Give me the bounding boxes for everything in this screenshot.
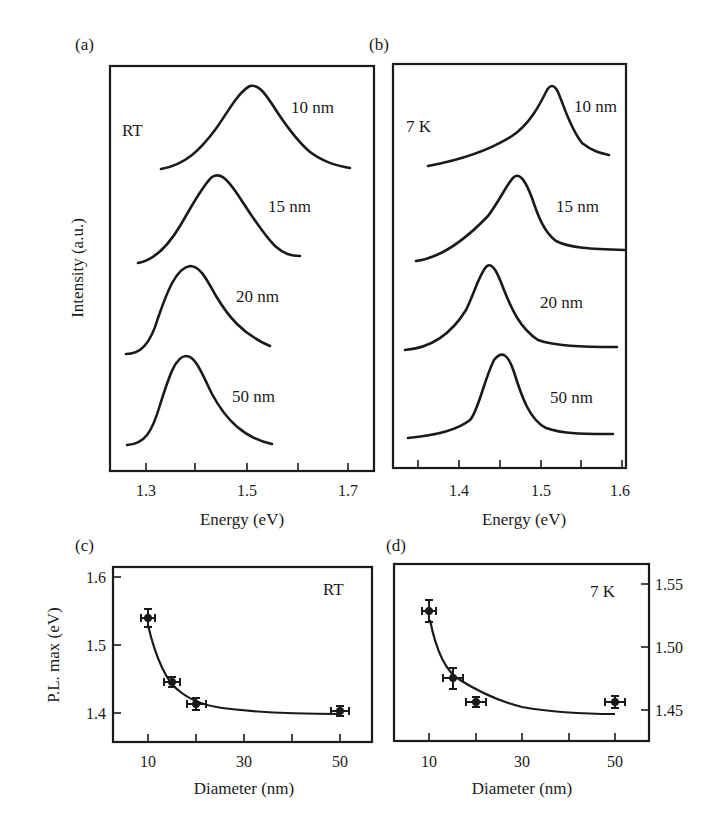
panel-c-point-10nm [141,609,155,627]
panel-c-fit-curve [148,625,340,714]
panel-a-label-15nm: 15 nm [268,197,311,216]
panel-a-curve-20nm [126,266,270,354]
panel-d-point-10nm [422,600,436,622]
panel-b-label-15nm: 15 nm [556,197,599,216]
panel-a-tick-1.5: 1.5 [237,482,257,499]
panel-d-ytick-1.55: 1.55 [655,576,683,593]
panel-c-ytick-1.5: 1.5 [86,637,106,654]
panel-c-xtick-10: 10 [140,753,156,770]
panel-d-point-50nm [605,696,625,708]
panel-b-label-20nm: 20 nm [540,293,583,312]
panel-c-ytick-1.6: 1.6 [86,569,106,586]
panel-d-xticks [429,733,615,741]
panel-a-tick-1.3: 1.3 [136,482,156,499]
panel-c-xtick-50: 50 [332,753,348,770]
panel-b-condition: 7 K [406,117,432,136]
panel-a-frame [110,66,374,471]
panel-b-tick-1.5: 1.5 [531,482,551,499]
panel-c-ylabel: P.L. max (eV) [44,607,63,702]
panel-b-curve-20nm [405,265,617,350]
panel-c: (c) 1.6 1.5 1.4 10 30 50 Diameter (nm) P… [44,536,372,798]
figure: (a) 1.3 1.5 1.7 Energy (eV) Intensity (a… [0,0,728,830]
panel-a-label-50nm: 50 nm [232,387,275,406]
panel-c-xlabel: Diameter (nm) [194,779,295,798]
panel-c-xticks [148,734,340,742]
panel-d-xlabel: Diameter (nm) [472,779,573,798]
panel-a-curve-15nm [138,175,300,263]
panel-a-label-10nm: 10 nm [291,98,334,117]
panel-a-xlabel: Energy (eV) [200,510,284,529]
panel-b: (b) 1.4 1.5 1.6 Energy (eV) 7 K 10 nm 15… [369,35,630,529]
panel-b-tick-1.6: 1.6 [610,482,630,499]
panel-a-label: (a) [75,35,94,54]
panel-c-point-20nm [187,698,206,710]
panel-b-tick-1.4: 1.4 [449,482,469,499]
panel-d-point-15nm [443,668,463,689]
panel-d-yticks [641,584,649,710]
panel-c-points [141,609,349,716]
panel-d-xtick-30: 30 [514,753,530,770]
panel-c-point-15nm [164,677,180,687]
panel-d-ytick-1.45: 1.45 [655,702,683,719]
panel-c-yticks [113,577,121,713]
panel-d: (d) 1.55 1.50 1.45 10 30 50 Diameter (nm… [386,536,683,798]
panel-d-condition: 7 K [590,582,616,601]
panel-d-points [422,600,625,708]
panel-a: (a) 1.3 1.5 1.7 Energy (eV) Intensity (a… [68,35,374,529]
panel-c-ytick-1.4: 1.4 [86,705,106,722]
panel-a-xticks [146,463,348,471]
panel-d-ytick-1.50: 1.50 [655,639,683,656]
panel-c-label: (c) [75,536,94,555]
panel-b-label: (b) [369,35,389,54]
intensity-ylabel: Intensity (a.u.) [68,218,87,318]
panel-b-label-10nm: 10 nm [574,97,617,116]
panel-b-label-50nm: 50 nm [550,388,593,407]
panel-d-label: (d) [386,536,406,555]
panel-a-tick-1.7: 1.7 [338,482,358,499]
panel-d-point-20nm [466,697,486,707]
panel-c-condition: RT [323,580,344,599]
panel-a-label-20nm: 20 nm [236,287,279,306]
panel-b-xticks [418,460,622,468]
panel-d-xtick-50: 50 [607,753,623,770]
panel-b-curve-15nm [416,176,625,261]
panel-b-xlabel: Energy (eV) [482,510,566,529]
panel-d-xtick-10: 10 [421,753,437,770]
panel-c-xtick-30: 30 [236,753,252,770]
panel-d-fit-curve [430,620,615,714]
panel-a-condition: RT [122,121,143,140]
